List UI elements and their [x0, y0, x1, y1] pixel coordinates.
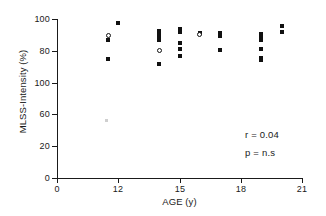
x-tick-mark	[302, 178, 303, 183]
data-point-filled	[106, 38, 110, 42]
x-tick-mark	[118, 178, 119, 183]
stray-speck	[105, 119, 108, 122]
x-tick-mark	[180, 178, 181, 183]
y-tick-mark	[52, 114, 57, 115]
data-point-filled	[218, 48, 222, 52]
y-axis-title: MLSS-Intensity (%)	[17, 22, 28, 162]
data-point-filled	[178, 41, 182, 45]
x-tick-mark	[57, 178, 58, 183]
data-point-filled	[116, 21, 120, 25]
x-tick-label: 0	[37, 185, 77, 194]
y-tick-label: 100	[8, 15, 50, 24]
pvalue-annotation: p = n.s	[245, 147, 275, 158]
y-tick-label: 20	[8, 142, 50, 151]
y-tick-label: 80	[8, 47, 50, 56]
data-point-filled	[259, 47, 263, 51]
data-point-open	[106, 33, 111, 38]
x-tick-label: 18	[221, 185, 261, 194]
x-tick-label: 15	[160, 185, 200, 194]
correlation-annotation: r = 0.04	[245, 129, 279, 140]
y-tick-mark	[52, 146, 57, 147]
x-tick-mark	[241, 178, 242, 183]
data-point-filled	[259, 38, 263, 42]
data-point-filled	[178, 54, 182, 58]
y-tick-label: 0	[8, 174, 50, 183]
data-point-filled	[106, 57, 110, 61]
x-tick-label: 21	[282, 185, 322, 194]
data-point-filled	[157, 38, 161, 42]
data-point-open	[197, 32, 202, 37]
scatter-plot-figure: 1008010060200 012151821 MLSS-Intensity (…	[0, 0, 326, 216]
y-tick-label: 100	[8, 79, 50, 88]
y-tick-mark	[52, 51, 57, 52]
y-tick-mark	[52, 83, 57, 84]
data-point-filled	[280, 24, 284, 28]
x-axis-title: AGE (y)	[57, 196, 302, 207]
x-tick-label: 12	[98, 185, 138, 194]
data-point-filled	[218, 34, 222, 38]
data-point-filled	[157, 62, 161, 66]
data-point-filled	[178, 30, 182, 34]
data-point-filled	[259, 58, 263, 62]
y-axis-line	[57, 19, 58, 179]
y-tick-label: 60	[8, 110, 50, 119]
y-tick-mark	[52, 19, 57, 20]
data-point-filled	[280, 30, 284, 34]
data-point-open	[157, 48, 162, 53]
data-point-filled	[178, 47, 182, 51]
